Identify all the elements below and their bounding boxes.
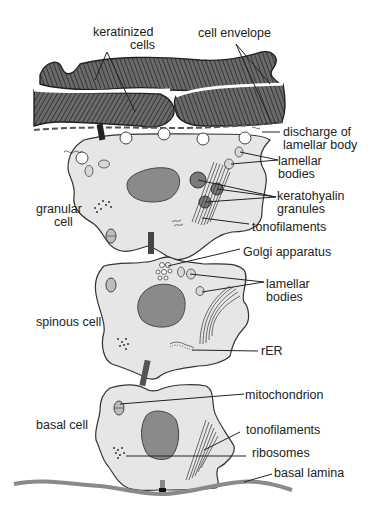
label-keratinized-cells-1: keratinized xyxy=(93,25,153,39)
label-granular-cell-2: cell xyxy=(54,215,73,229)
label-basal-lamina: basal lamina xyxy=(274,466,344,480)
spinous-cell xyxy=(95,257,248,386)
label-basal-cell: basal cell xyxy=(36,418,88,432)
label-keratohyalin-2: granules xyxy=(277,202,325,216)
label-mitochondrion: mitochondrion xyxy=(245,388,324,402)
label-lamellar-bodies-spinous-1: lamellar xyxy=(266,277,310,291)
label-golgi-apparatus: Golgi apparatus xyxy=(243,245,331,259)
label-cell-envelope: cell envelope xyxy=(198,26,271,40)
label-ribosomes: ribosomes xyxy=(252,446,310,460)
label-tonofilaments-basal: tonofilaments xyxy=(246,423,320,437)
label-lamellar-bodies-spinous-2: bodies xyxy=(266,290,303,304)
label-discharge-2: lamellar body xyxy=(283,138,358,152)
basal-cell xyxy=(96,385,235,493)
keratinized-layer xyxy=(34,52,285,127)
label-tonofilaments-granular: tonofilaments xyxy=(252,220,326,234)
cell-envelope-line xyxy=(34,90,170,92)
label-keratohyalin-1: keratohyalin xyxy=(277,189,344,203)
epidermis-diagram: keratinized cells cell envelope discharg… xyxy=(0,0,368,507)
label-rer: rER xyxy=(261,344,283,358)
label-lamellar-bodies-granular-2: bodies xyxy=(278,167,315,181)
mitochondrion-spinous xyxy=(106,278,116,292)
label-discharge-1: discharge of xyxy=(283,125,352,139)
label-granular-cell-1: granular xyxy=(36,202,82,216)
label-keratinized-cells-2: cells xyxy=(130,38,155,52)
label-lamellar-bodies-granular-1: lamellar xyxy=(278,154,322,168)
desmosome-granular-spinous xyxy=(148,232,154,254)
spinous-nucleus xyxy=(138,284,185,327)
hemidesmosome xyxy=(159,480,166,493)
label-spinous-cell: spinous cell xyxy=(36,315,101,329)
basal-nucleus xyxy=(142,411,179,459)
keratinized-cell-bottom-left xyxy=(34,90,174,127)
